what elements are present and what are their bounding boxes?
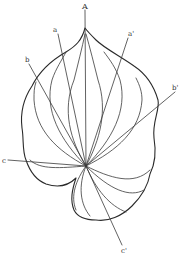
vein [86,166,126,212]
label-a-prime: a' [128,30,134,38]
label-c: c [2,157,6,165]
vein [86,78,142,166]
vein [86,34,102,166]
vein [34,82,86,166]
ref-line-b [29,64,86,166]
label-b-prime: b' [172,84,178,92]
ref-line-b-prime [86,92,175,166]
label-A: A [81,2,88,11]
leaf-diagram: A a a' b b' c c' [0,0,179,262]
ref-line-c [8,160,86,166]
label-c-prime: c' [121,247,127,255]
vein [86,166,150,179]
ref-line-a [58,34,86,166]
label-a: a [53,26,57,34]
vein [68,34,86,166]
midrib-line-A [85,10,86,166]
leaf-diagram-svg: A a a' b b' c c' [0,0,179,262]
vein [81,166,90,216]
label-b: b [25,56,30,64]
leaf-outline [21,28,158,220]
vein [74,166,86,210]
